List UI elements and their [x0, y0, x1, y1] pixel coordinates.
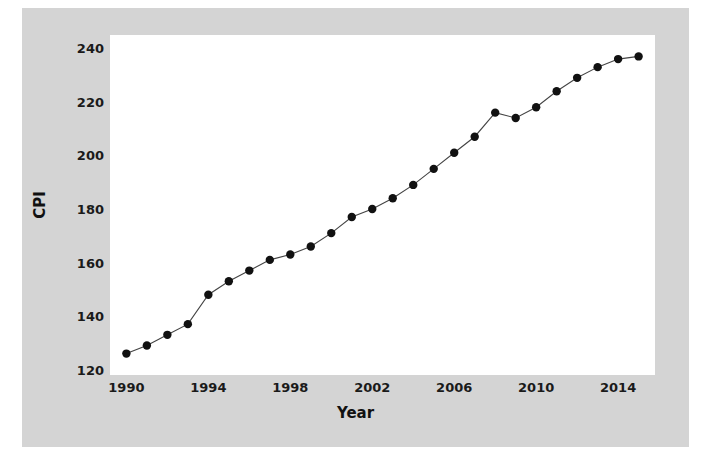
x-axis-tick-2002: 2002 — [354, 381, 390, 394]
y-axis-label: CPI — [31, 191, 49, 219]
cpi-line — [126, 56, 638, 353]
data-point-1993 — [184, 320, 192, 328]
data-point-1996 — [245, 266, 253, 274]
y-axis-tick-220: 220 — [58, 95, 104, 108]
figure-margin-bottom — [0, 447, 711, 455]
data-point-2008 — [491, 108, 499, 116]
plot-area — [110, 35, 655, 375]
data-point-2009 — [511, 114, 519, 122]
data-point-2003 — [389, 194, 397, 202]
y-axis-tick-180: 180 — [58, 203, 104, 216]
y-axis-tick-120: 120 — [58, 363, 104, 376]
line-chart-svg — [110, 35, 655, 375]
data-point-2004 — [409, 181, 417, 189]
data-point-1998 — [286, 250, 294, 258]
chart-figure: 240220200180160140120 199019941998200220… — [0, 0, 711, 455]
data-point-2000 — [327, 229, 335, 237]
data-point-2014 — [614, 55, 622, 63]
data-point-2002 — [368, 205, 376, 213]
y-axis-tick-140: 140 — [58, 310, 104, 323]
data-point-1991 — [143, 341, 151, 349]
data-point-2013 — [593, 63, 601, 71]
figure-margin-top — [0, 0, 711, 8]
x-axis-tick-1990: 1990 — [108, 381, 144, 394]
data-point-2007 — [471, 133, 479, 141]
data-point-2005 — [430, 165, 438, 173]
data-point-2001 — [348, 213, 356, 221]
x-axis-tick-2010: 2010 — [518, 381, 554, 394]
data-point-1992 — [163, 331, 171, 339]
x-axis-tick-1994: 1994 — [190, 381, 226, 394]
x-axis-tick-1998: 1998 — [272, 381, 308, 394]
data-point-1990 — [122, 349, 130, 357]
data-point-2015 — [634, 52, 642, 60]
x-axis-label: Year — [0, 404, 711, 422]
data-point-1994 — [204, 290, 212, 298]
data-point-2011 — [552, 87, 560, 95]
data-point-2010 — [532, 103, 540, 111]
y-axis-tick-240: 240 — [58, 42, 104, 55]
x-axis-tick-2014: 2014 — [600, 381, 636, 394]
x-axis-tick-2006: 2006 — [436, 381, 472, 394]
data-point-1995 — [225, 277, 233, 285]
data-point-1997 — [266, 256, 274, 264]
y-axis-tick-200: 200 — [58, 149, 104, 162]
x-axis-tick-labels: 1990199419982002200620102014 — [0, 381, 711, 401]
data-point-2006 — [450, 149, 458, 157]
data-point-2012 — [573, 74, 581, 82]
data-point-1999 — [307, 242, 315, 250]
y-axis-tick-160: 160 — [58, 256, 104, 269]
